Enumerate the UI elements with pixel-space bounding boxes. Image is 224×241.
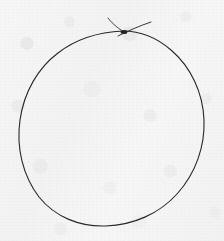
crossing-ink-blob xyxy=(121,30,128,34)
circle-drawing-svg xyxy=(0,0,224,241)
pen-strokes xyxy=(19,18,204,226)
ink-drawing-layer xyxy=(0,0,224,241)
circle-body-stroke xyxy=(19,31,204,226)
sketch-canvas xyxy=(0,0,224,241)
stroke-start-tail xyxy=(108,18,124,32)
